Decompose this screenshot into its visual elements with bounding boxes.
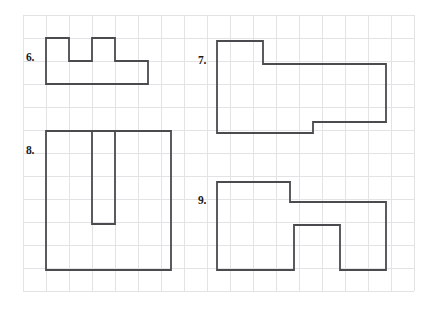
- shape-polygon-7: [217, 41, 386, 133]
- shape-polygon-9: [217, 182, 386, 270]
- shape-polygon-6: [46, 38, 148, 84]
- shape-polygon-8: [46, 131, 171, 270]
- shapes-layer: [0, 0, 428, 312]
- worksheet-page: 6.7.8.9.: [0, 0, 428, 312]
